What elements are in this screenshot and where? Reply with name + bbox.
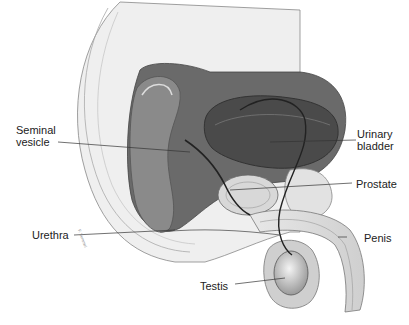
artist-signature: F. Semmel	[77, 229, 88, 249]
label-penis: Penis	[364, 232, 392, 244]
label-seminal-vesicle: Seminal vesicle	[16, 124, 56, 148]
anatomy-illustration: F. Semmel	[0, 0, 409, 325]
label-testis: Testis	[200, 280, 228, 292]
label-urinary-bladder: Urinary bladder	[357, 128, 394, 152]
testis-shape	[274, 251, 308, 295]
prostate-shape	[218, 175, 278, 215]
label-prostate: Prostate	[356, 178, 397, 190]
label-urethra: Urethra	[32, 229, 69, 241]
